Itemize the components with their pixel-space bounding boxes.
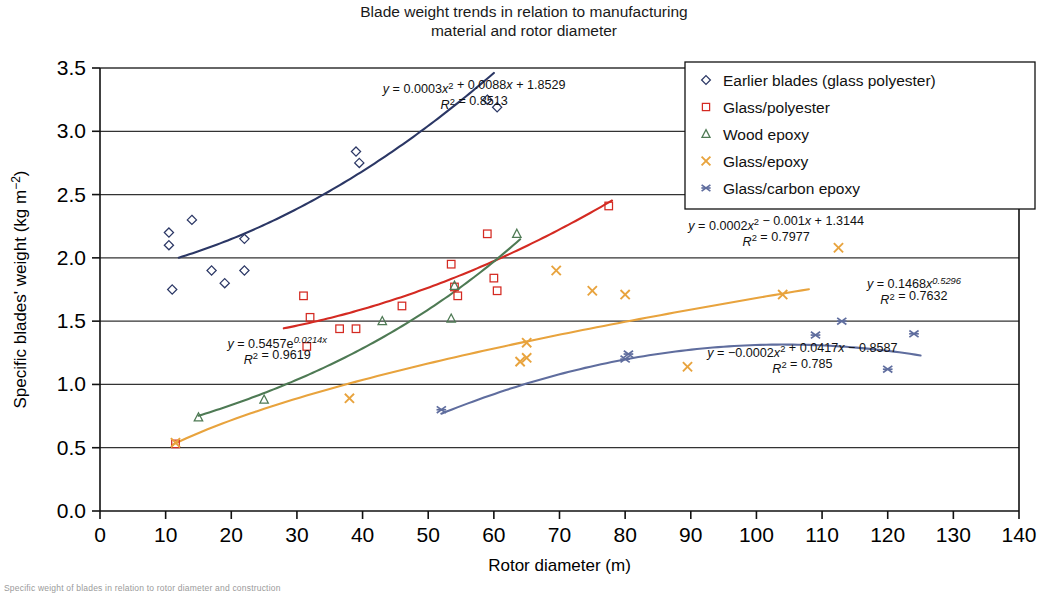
- y-axis-title: Specific blades' weight (kg m−2): [9, 170, 30, 408]
- data-point-cross: [552, 266, 561, 275]
- data-point-diamond: [220, 279, 229, 288]
- data-point-asterisk: [811, 332, 821, 339]
- legend-label: Glass/polyester: [723, 99, 830, 116]
- data-point-asterisk: [437, 406, 447, 413]
- x-tick-label: 130: [936, 523, 971, 546]
- data-point-diamond: [164, 228, 173, 237]
- equation-line: R2 = 0.7632: [880, 289, 947, 308]
- x-tick-label: 20: [220, 523, 243, 546]
- y-tick-label: 3.0: [57, 119, 86, 142]
- data-point-asterisk: [909, 330, 919, 337]
- data-point-square: [447, 260, 455, 268]
- equation-line: R2 = 0.7977: [743, 230, 810, 249]
- legend-label: Earlier blades (glass polyester): [723, 72, 936, 89]
- data-point-diamond: [164, 241, 173, 250]
- legend-label: Glass/carbon epoxy: [723, 180, 860, 197]
- x-tick-label: 100: [739, 523, 774, 546]
- data-point-diamond: [240, 266, 249, 275]
- y-tick-label: 1.5: [57, 309, 86, 332]
- x-tick-label: 0: [94, 523, 106, 546]
- data-point-cross: [621, 290, 630, 299]
- data-point-triangle: [260, 395, 268, 403]
- x-tick-label: 120: [870, 523, 905, 546]
- figure-caption: Specific weight of blades in relation to…: [4, 583, 1044, 594]
- data-point-cross: [834, 243, 843, 252]
- data-point-diamond: [207, 266, 216, 275]
- data-point-diamond: [168, 285, 177, 294]
- y-tick-label: 3.5: [57, 56, 86, 79]
- x-tick-label: 60: [482, 523, 505, 546]
- data-point-square: [352, 325, 360, 333]
- x-tick-label: 110: [805, 523, 838, 546]
- data-point-cross: [683, 362, 692, 371]
- data-point-diamond: [355, 158, 364, 167]
- x-tick-label: 10: [154, 523, 177, 546]
- data-point-square: [454, 292, 462, 300]
- data-point-asterisk: [837, 318, 847, 325]
- x-axis-title: Rotor diameter (m): [488, 556, 631, 575]
- equation-line: R2 = 0.9619: [244, 348, 311, 367]
- scatter-chart: 0.00.51.01.52.02.53.03.50102030405060708…: [0, 0, 1048, 575]
- data-point-triangle: [513, 229, 521, 237]
- legend-label: Glass/epoxy: [723, 153, 809, 170]
- y-tick-label: 2.0: [57, 246, 86, 269]
- chart-page: Blade weight trends in relation to manuf…: [0, 0, 1048, 595]
- y-tick-label: 2.5: [57, 183, 86, 206]
- trend-line-cross: [172, 289, 809, 445]
- x-tick-label: 30: [285, 523, 308, 546]
- data-point-cross: [345, 394, 354, 403]
- data-point-square: [493, 287, 501, 295]
- chart-legend: Earlier blades (glass polyester)Glass/po…: [685, 62, 1035, 209]
- y-tick-label: 1.0: [57, 372, 86, 395]
- data-point-square: [398, 302, 406, 310]
- data-point-asterisk: [883, 366, 893, 373]
- data-point-diamond: [187, 215, 196, 224]
- x-tick-label: 70: [548, 523, 571, 546]
- x-tick-label: 90: [679, 523, 702, 546]
- axis-titles: Rotor diameter (m)Specific blades' weigh…: [9, 170, 631, 575]
- x-tick-label: 40: [351, 523, 374, 546]
- x-tick-label: 80: [613, 523, 636, 546]
- y-tick-label: 0.5: [57, 436, 86, 459]
- data-point-square: [484, 230, 492, 238]
- data-point-square: [490, 274, 498, 282]
- data-point-cross: [588, 286, 597, 295]
- data-point-square: [306, 314, 314, 322]
- data-point-square: [300, 292, 308, 300]
- x-tick-label: 140: [1001, 523, 1036, 546]
- legend-label: Wood epoxy: [723, 126, 809, 143]
- data-point-triangle: [450, 281, 458, 289]
- data-point-diamond: [351, 147, 360, 156]
- x-tick-label: 50: [417, 523, 440, 546]
- data-point-square: [336, 325, 344, 333]
- y-tick-label: 0.0: [57, 499, 86, 522]
- equation-line: R2 = 0.785: [772, 357, 832, 376]
